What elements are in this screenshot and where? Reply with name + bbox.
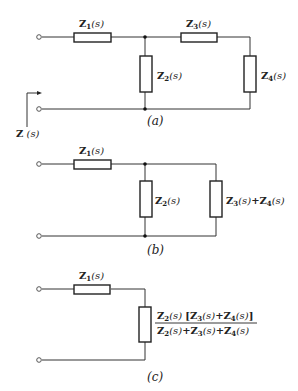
terminal-bottom-b [37,234,42,239]
impedance-z1-c [74,285,110,294]
label-z1-c: Z1(s) [79,270,104,283]
equivalent-impedance-fraction: Z2(s) [Z3(s)+Z4(s)] Z2(s)+Z3(s)+Z4(s) [155,310,257,338]
fraction-numerator: Z2(s) [Z3(s)+Z4(s)] [157,310,253,323]
junction-dot [143,35,147,39]
label-z2-a: Z2(s) [157,70,182,83]
junction-dot [143,107,147,111]
label-z4-a: Z4(s) [261,70,286,83]
impedance-z1-b [74,160,111,169]
caption-b: (b) [147,243,164,257]
impedance-z2-a [140,56,152,92]
label-z2-b: Z2(s) [155,195,180,208]
junction-dot [143,162,147,166]
impedance-z2-b [140,181,152,217]
label-z1-a: Z1(s) [79,18,104,31]
impedance-z4-a [244,56,256,92]
circuit-b: Z1(s) Z2(s) Z3(s)+Z4(s) (b) [37,145,285,257]
terminal-bottom-c [37,358,42,363]
impedance-z1-a [74,33,111,42]
fraction-denominator: Z2(s)+Z3(s)+Z4(s) [157,325,249,338]
label-input-impedance: Z (s) [16,128,40,139]
terminal-bottom-a [37,107,42,112]
circuit-c: Z1(s) Z2(s) [Z3(s)+Z4(s)] Z2(s)+Z3(s)+Z4… [37,270,257,384]
label-z1-b: Z1(s) [79,145,104,158]
caption-a: (a) [147,114,164,128]
terminal-top-c [37,287,42,292]
terminal-top-b [37,162,42,167]
impedance-zeq-c [139,307,151,342]
junction-dot [143,234,147,238]
caption-c: (c) [147,370,163,384]
arrow-head-icon [37,91,42,95]
label-z3-a: Z3(s) [186,18,211,31]
terminal-top-a [37,35,42,40]
circuit-a: Z1(s) Z3(s) Z2(s) Z4(s) Z (s) (a) [16,18,286,139]
impedance-z34-b [210,181,222,217]
label-z34-b: Z3(s)+Z4(s) [226,195,285,208]
circuit-reduction-diagram: Z1(s) Z3(s) Z2(s) Z4(s) Z (s) (a) Z1(s) … [0,0,298,391]
impedance-z3-a [181,33,217,42]
